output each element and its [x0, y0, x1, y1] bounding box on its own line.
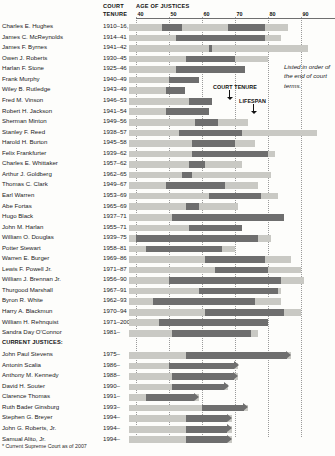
court-tenure-bar [169, 77, 199, 84]
justice-name: Harold H. Burton [2, 138, 47, 145]
justice-court-tenure-years: 1969–86 [103, 254, 127, 261]
justice-name: Lewis F. Powell Jr. [2, 265, 52, 272]
justice-name: Warren E. Burger [2, 254, 49, 261]
justice-court-tenure-years: 1994– [103, 413, 120, 420]
justice-name: Harlan F. Stone [2, 64, 44, 71]
justice-court-tenure-years: 1939–75 [103, 233, 127, 240]
court-tenure-bar [192, 151, 268, 158]
justice-court-tenure-years: 1943–49 [103, 85, 127, 92]
justice-name: William O. Douglas [2, 233, 54, 240]
x-tick-label-70: 70 [237, 11, 243, 17]
justice-court-tenure-years: 1988– [103, 371, 120, 378]
justice-name: Earl Warren [2, 191, 34, 198]
legend-label-court-tenure: COURT TENURE [213, 84, 257, 90]
x-tick-label-60: 60 [204, 11, 210, 17]
justice-name: Sherman Minton [2, 117, 47, 124]
justice-name: William J. Brennan Jr. [2, 275, 61, 282]
court-tenure-bar [189, 161, 206, 168]
justice-name: Thurgood Marshall [2, 286, 53, 293]
tenure-bar-shaft [202, 405, 244, 412]
column-header-court-tenure-line2: TENURE [103, 11, 127, 17]
justice-name: Charles E. Hughes [2, 22, 53, 29]
court-tenure-bar [146, 246, 222, 253]
tenure-bar-shaft [186, 426, 228, 433]
justice-court-tenure-years: 1949–56 [103, 117, 127, 124]
justice-court-tenure-years: 1957–62 [103, 159, 127, 166]
tenure-ongoing-arrow-icon [233, 372, 238, 380]
court-tenure-bar [136, 235, 258, 242]
justice-name: Owen J. Roberts [2, 54, 47, 61]
justice-court-tenure-years: 1949–67 [103, 180, 127, 187]
court-tenure-bar [166, 108, 209, 115]
tenure-bar-shaft [146, 394, 194, 401]
justice-court-tenure-years: 1958–81 [103, 244, 127, 251]
court-tenure-bar [199, 288, 278, 295]
justice-name: Abe Fortas [2, 202, 32, 209]
justice-court-tenure-years: 1955–71 [103, 223, 127, 230]
court-tenure-bar [189, 98, 212, 105]
justice-name: James F. Byrnes [2, 43, 47, 50]
justice-court-tenure-years: 1941–54 [103, 107, 127, 114]
justice-name: Hugo Black [2, 212, 33, 219]
justice-name: Ruth Bader Ginsburg [2, 403, 59, 410]
court-tenure-bar [215, 267, 268, 274]
justice-name: Frank Murphy [2, 75, 40, 82]
justice-court-tenure-years: 1990– [103, 382, 120, 389]
justice-court-tenure-years: 1965–69 [103, 202, 127, 209]
court-tenure-bar [172, 214, 284, 221]
justice-court-tenure-years: 1971–87 [103, 265, 127, 272]
legend-leader-arrow-lifespan-icon [251, 111, 257, 114]
court-tenure-bar [186, 426, 232, 433]
justice-court-tenure-years: 1967–91 [103, 286, 127, 293]
court-tenure-bar [169, 363, 238, 370]
court-tenure-bar [159, 319, 268, 326]
axis-rule [136, 18, 335, 19]
court-tenure-bar [162, 24, 182, 31]
tenure-ongoing-arrow-icon [224, 382, 229, 390]
justice-name: Potter Stewart [2, 244, 41, 251]
justice-name: James C. McReynolds [2, 33, 63, 40]
justice-name: Wiley B. Rutledge [2, 85, 50, 92]
justice-court-tenure-years: 1986– [103, 361, 120, 368]
tenure-bar-shaft [172, 373, 233, 380]
court-tenure-bar [186, 436, 232, 443]
court-tenure-bar [186, 352, 292, 359]
lifespan-bar [129, 172, 271, 179]
justice-court-tenure-years: 1938–57 [103, 128, 127, 135]
justice-court-tenure-years: 1946–53 [103, 96, 127, 103]
court-tenure-bar [209, 45, 212, 52]
tenure-ongoing-arrow-icon [243, 403, 248, 411]
justice-name: Arthur J. Goldberg [2, 170, 52, 177]
x-tick-label-80: 80 [270, 11, 276, 17]
tenure-ongoing-arrow-icon [227, 414, 232, 422]
lifespan-bar [129, 203, 238, 210]
justice-name: Antonin Scalia [2, 361, 41, 368]
court-tenure-bar [172, 384, 228, 391]
court-tenure-bar [146, 394, 199, 401]
justice-court-tenure-years: 1914–41 [103, 33, 127, 40]
justice-name: Sandra Day O'Connor [2, 328, 62, 335]
section-heading-current-justices: CURRENT JUSTICES: [2, 339, 63, 345]
supreme-court-tenure-chart: COURT TENURE AGE OF JUSTICES 40506070809… [0, 0, 335, 456]
section-heading-row: CURRENT JUSTICES: [0, 338, 335, 350]
justice-name: Byron R. White [2, 296, 43, 303]
tenure-bar-shaft [186, 352, 287, 359]
court-tenure-bar [172, 330, 251, 337]
court-tenure-bar [186, 203, 199, 210]
court-tenure-bar [179, 130, 242, 137]
justice-name: Charles E. Whittaker [2, 159, 58, 166]
justice-court-tenure-years: 1941–42 [103, 43, 127, 50]
legend-leader-arrow-court-tenure-icon [227, 97, 233, 100]
justice-name: Stanley F. Reed [2, 128, 45, 135]
lifespan-bar [129, 119, 248, 126]
x-tick-label-40: 40 [138, 11, 144, 17]
court-tenure-bar [195, 119, 218, 126]
lifespan-bar [129, 161, 241, 168]
justice-court-tenure-years: 1956–90 [103, 275, 127, 282]
justice-name: Felix Frankfurter [2, 149, 46, 156]
justice-name: William H. Rehnquist [2, 318, 59, 325]
justice-name: John Paul Stevens [2, 350, 53, 357]
justice-court-tenure-years: 1981– [103, 328, 120, 335]
court-tenure-bar [186, 415, 232, 422]
court-tenure-bar [205, 256, 264, 263]
